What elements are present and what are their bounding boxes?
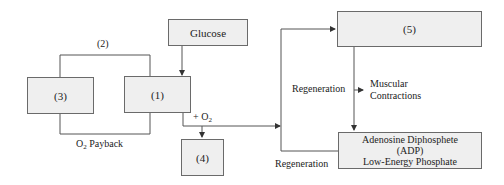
node-1-label: (1) — [151, 89, 164, 101]
regeneration-upper-text: Regeneration — [292, 83, 345, 94]
node-1-box: (1) — [124, 76, 191, 113]
regeneration-lower-text: Regeneration — [275, 158, 328, 169]
adp-label-line1: Adenosine Diphosphete — [362, 134, 458, 145]
regeneration-upper-label: Regeneration — [292, 83, 345, 95]
node-5-box: (5) — [337, 11, 482, 47]
muscular-line2: Contractions — [370, 90, 421, 102]
loop-top-text: (2) — [97, 38, 109, 49]
adp-box: Adenosine Diphosphete (ADP) Low-Energy P… — [338, 132, 482, 169]
muscular-line1: Muscular — [370, 78, 421, 90]
oxygen-prefix: + O — [193, 111, 208, 122]
regeneration-lower-label: Regeneration — [275, 158, 328, 170]
muscular-contractions-label: Muscular Contractions — [370, 78, 421, 102]
node-3-label: (3) — [54, 90, 67, 102]
adp-label-line3: Low-Energy Phosphate — [363, 156, 457, 167]
node-4-label: (4) — [196, 152, 209, 164]
adp-label-line2: (ADP) — [397, 145, 424, 156]
o2-payback-label: O2 Payback — [76, 138, 123, 153]
node-3-box: (3) — [27, 77, 94, 114]
oxygen-label: + O2 — [193, 111, 212, 126]
node-5-label: (5) — [403, 23, 416, 35]
glucose-box: Glucose — [168, 19, 248, 46]
payback-suffix: Payback — [87, 138, 123, 149]
glucose-label: Glucose — [190, 27, 226, 39]
loop-label-2: (2) — [97, 38, 109, 50]
node-4-box: (4) — [181, 139, 224, 176]
oxygen-sub: 2 — [208, 116, 212, 124]
